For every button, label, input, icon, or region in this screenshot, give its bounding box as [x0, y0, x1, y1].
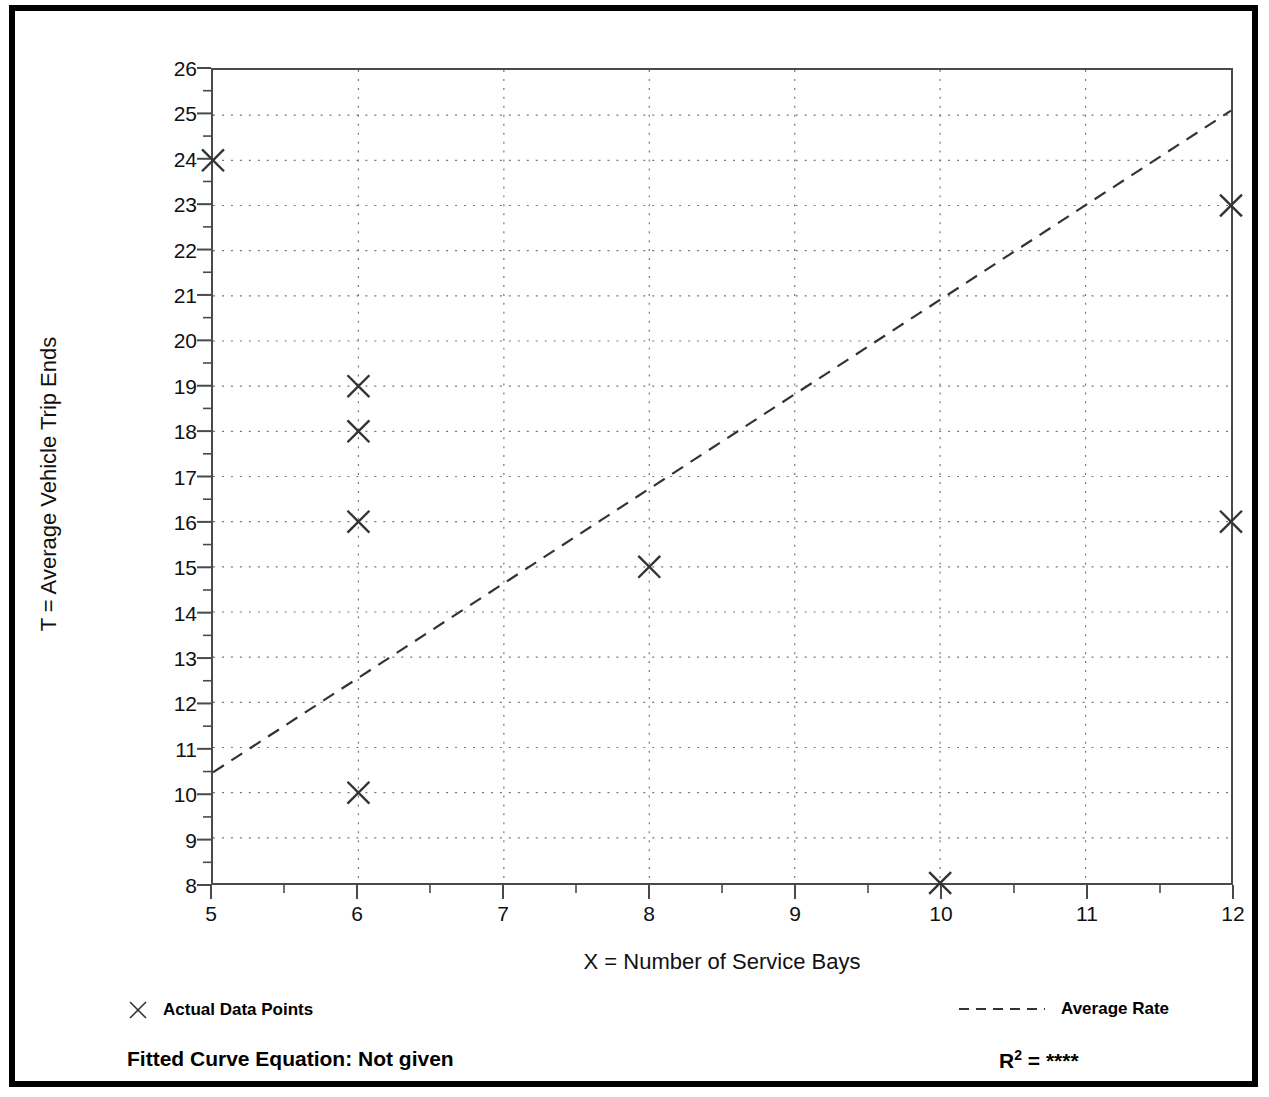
data-point-marker: [202, 149, 224, 171]
r-squared-equals: =: [1022, 1049, 1046, 1072]
data-point-marker: [347, 782, 369, 804]
legend-label-average-rate: Average Rate: [1061, 999, 1169, 1019]
y-tick-label: 25: [174, 103, 197, 124]
y-tick-label: 26: [174, 58, 197, 79]
y-tick-label: 14: [174, 602, 197, 623]
y-tick-label: 20: [174, 330, 197, 351]
y-axis-tick-labels: 891011121314151617181920212223242526: [145, 68, 197, 885]
y-tick-label: 17: [174, 466, 197, 487]
r-squared-stars: ****: [1046, 1049, 1079, 1072]
y-tick-label: 22: [174, 239, 197, 260]
y-tick-label: 16: [174, 511, 197, 532]
y-tick-label: 10: [174, 784, 197, 805]
x-tick-label: 6: [351, 903, 363, 924]
y-tick-label: 11: [175, 738, 197, 759]
y-tick-label: 19: [174, 375, 197, 396]
dashed-line-icon: [959, 1004, 1045, 1014]
x-axis-tick-labels: 56789101112: [211, 903, 1233, 933]
x-tick-label: 9: [789, 903, 801, 924]
data-point-marker: [638, 556, 660, 578]
x-tick-label: 5: [205, 903, 217, 924]
data-point-marker: [1220, 511, 1242, 533]
y-tick-label: 8: [185, 875, 197, 896]
r-squared-label: R: [999, 1049, 1014, 1072]
legend-actual-data-points: Actual Data Points: [127, 999, 313, 1021]
x-marker-icon: [127, 999, 149, 1021]
chart-figure: 891011121314151617181920212223242526 567…: [0, 0, 1269, 1097]
x-tick-label: 12: [1221, 903, 1244, 924]
x-tick-label: 7: [497, 903, 509, 924]
y-tick-label: 23: [174, 194, 197, 215]
y-tick-label: 21: [174, 284, 197, 305]
plot-area: [211, 68, 1233, 885]
x-tick-label: 10: [929, 903, 952, 924]
r-squared-exponent: 2: [1014, 1047, 1022, 1063]
y-tick-label: 18: [174, 421, 197, 442]
y-tick-label: 13: [174, 648, 197, 669]
legend-label-actual-data-points: Actual Data Points: [163, 1000, 313, 1020]
data-point-marker: [929, 872, 951, 894]
fitted-curve-equation: Fitted Curve Equation: Not given: [127, 1047, 454, 1071]
x-tick-label: 11: [1076, 903, 1098, 924]
data-point-marker: [347, 511, 369, 533]
data-point-marker: [1220, 195, 1242, 217]
x-axis-title: X = Number of Service Bays: [211, 949, 1233, 975]
r-squared-value: R2 = ****: [999, 1047, 1079, 1073]
legend-average-rate: Average Rate: [959, 999, 1169, 1019]
y-axis-title: T = Average Vehicle Trip Ends: [36, 184, 62, 784]
figure-border-frame: 891011121314151617181920212223242526 567…: [9, 5, 1258, 1087]
data-point-marker: [347, 375, 369, 397]
data-layer: [213, 70, 1231, 883]
y-tick-label: 12: [174, 693, 197, 714]
data-point-marker: [347, 420, 369, 442]
y-tick-label: 24: [174, 148, 197, 169]
x-tick-label: 8: [643, 903, 655, 924]
y-tick-label: 9: [185, 829, 197, 850]
y-tick-label: 15: [174, 557, 197, 578]
